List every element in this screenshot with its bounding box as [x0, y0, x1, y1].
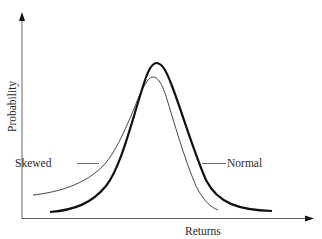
y-axis-label: Probability — [6, 81, 19, 132]
skewed-label: Skewed — [15, 157, 52, 169]
normal-annotation: Normal — [202, 157, 262, 169]
y-axis-arrow-icon — [19, 12, 25, 21]
x-axis-arrow-icon — [305, 216, 314, 222]
normal-label: Normal — [227, 157, 262, 169]
x-axis-label: Returns — [185, 225, 221, 237]
y-axis — [19, 12, 25, 219]
distribution-chart: Skewed Normal Returns Probability — [0, 0, 322, 239]
x-axis — [22, 216, 314, 222]
normal-curve — [50, 63, 272, 212]
skewed-annotation: Skewed — [15, 157, 99, 169]
